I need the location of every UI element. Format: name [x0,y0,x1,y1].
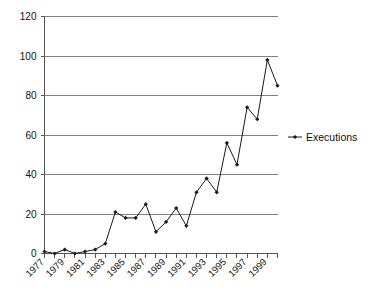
x-tick-label-1995: 1995 [206,256,229,279]
chart-legend: Executions [288,131,357,143]
x-tick-label-1979: 1979 [43,256,66,279]
data-point-1978 [53,251,57,255]
x-tick-label-1993: 1993 [185,256,208,279]
executions-line-chart: 020406080100120 197719791981198319851987… [0,0,371,294]
data-point-1984 [113,210,117,214]
data-point-1982 [93,247,97,251]
x-tick-label-1991: 1991 [165,256,188,279]
x-tick-label-1987: 1987 [124,256,147,279]
x-tick-marks [45,254,278,258]
y-tick-label-80: 80 [25,90,37,101]
data-series [42,58,279,256]
data-point-1983 [103,242,107,246]
y-tick-label-40: 40 [25,169,37,180]
series-line-executions [45,60,278,254]
y-tick-label-100: 100 [20,51,37,62]
data-point-2000 [275,84,279,88]
x-tick-labels: 1977197919811983198519871989199119931995… [23,256,269,279]
x-tick-label-1985: 1985 [104,256,127,279]
data-point-1980 [73,251,77,255]
x-tick-label-1981: 1981 [64,256,87,279]
x-tick-label-1999: 1999 [246,256,269,279]
legend-label-executions: Executions [306,131,357,143]
x-tick-label-1997: 1997 [226,256,249,279]
x-tick-label-1983: 1983 [84,256,107,279]
data-point-1977 [42,249,46,253]
x-tick-label-1989: 1989 [145,256,168,279]
y-tick-label-60: 60 [25,130,37,141]
chart-canvas: 020406080100120 197719791981198319851987… [0,0,371,294]
data-point-1995 [225,141,229,145]
data-point-1996 [235,163,239,167]
legend-marker-icon [293,135,297,139]
y-tick-label-120: 120 [20,11,37,22]
data-point-1985 [123,216,127,220]
x-tick-label-1977: 1977 [23,256,46,279]
data-point-1999 [265,58,269,62]
y-tick-label-20: 20 [25,209,37,220]
data-point-1981 [83,249,87,253]
data-point-1991 [184,224,188,228]
data-point-1979 [63,247,67,251]
y-tick-labels: 020406080100120 [20,11,45,259]
